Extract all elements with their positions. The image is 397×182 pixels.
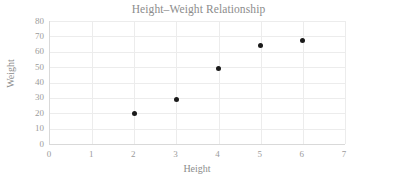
y-axis-title: Weight (5, 44, 16, 104)
y-tick-label: 80 (4, 17, 44, 26)
data-point (174, 97, 179, 102)
y-tick-label: 20 (4, 109, 44, 118)
gridline-horizontal (50, 98, 345, 99)
data-point (300, 38, 305, 43)
gridline-vertical (261, 21, 262, 144)
gridline-horizontal (50, 113, 345, 114)
data-point (132, 111, 137, 116)
x-tick-label: 5 (245, 150, 275, 159)
scatter-chart: Height–Weight Relationship 0102030405060… (0, 0, 397, 182)
x-tick-label: 1 (76, 150, 106, 159)
gridline-vertical (92, 21, 93, 144)
y-tick-label: 10 (4, 124, 44, 133)
gridline-horizontal (50, 36, 345, 37)
gridline-vertical (134, 21, 135, 144)
gridline-horizontal (50, 67, 345, 68)
plot-area (49, 21, 345, 145)
x-tick-label: 7 (329, 150, 359, 159)
gridline-horizontal (50, 21, 345, 22)
x-axis-tick-labels: 01234567 (49, 150, 345, 162)
gridline-vertical (176, 21, 177, 144)
y-tick-label: 0 (4, 140, 44, 149)
data-point (216, 66, 221, 71)
x-tick-label: 4 (203, 150, 233, 159)
chart-title: Height–Weight Relationship (0, 3, 397, 15)
gridline-horizontal (50, 83, 345, 84)
gridline-vertical (345, 21, 346, 144)
x-tick-label: 6 (287, 150, 317, 159)
gridline-horizontal (50, 129, 345, 130)
gridline-horizontal (50, 52, 345, 53)
gridline-vertical (219, 21, 220, 144)
x-tick-label: 2 (118, 150, 148, 159)
y-tick-label: 70 (4, 32, 44, 41)
x-tick-label: 0 (34, 150, 64, 159)
data-point (258, 43, 263, 48)
x-axis-title: Height (49, 163, 345, 174)
x-tick-label: 3 (160, 150, 190, 159)
